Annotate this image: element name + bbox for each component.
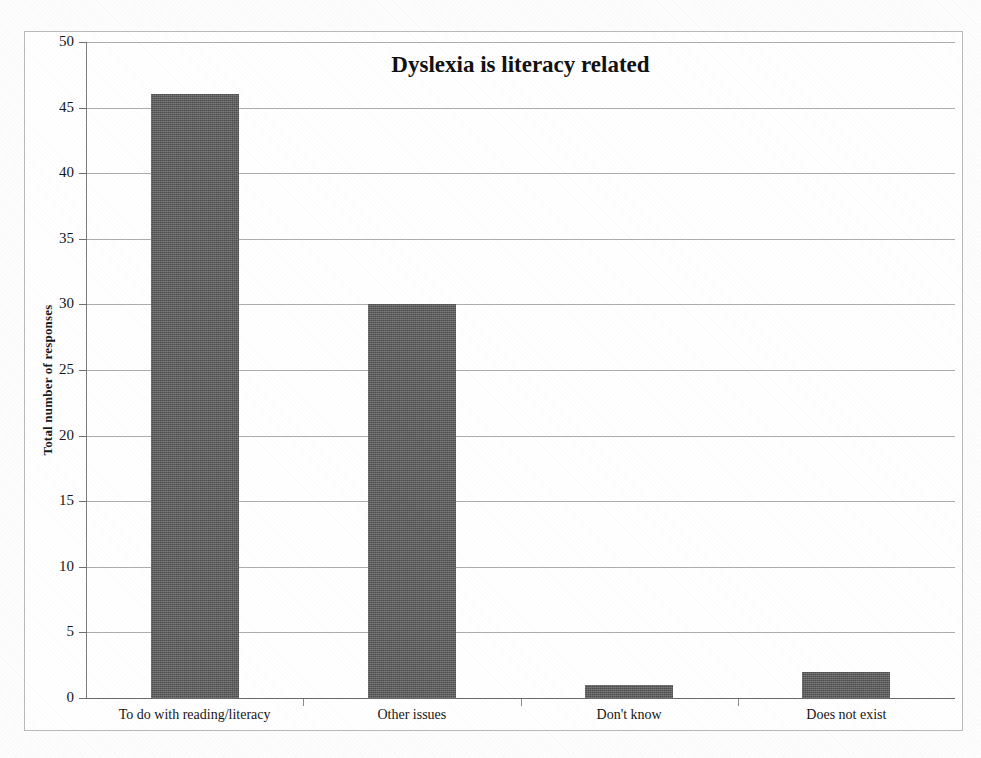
y-tick-label: 0 (34, 690, 74, 705)
y-tick-mark-15 (79, 501, 87, 502)
bar (585, 685, 673, 698)
y-tick-label: 40 (34, 165, 74, 180)
y-tick-mark-0 (79, 698, 87, 699)
y-tick-mark-50 (79, 42, 87, 43)
y-tick-mark-20 (79, 436, 87, 437)
bar (802, 672, 890, 698)
y-tick-label: 30 (34, 296, 74, 311)
y-tick-label: 20 (34, 428, 74, 443)
y-tick-mark-40 (79, 173, 87, 174)
y-tick-mark-25 (79, 370, 87, 371)
x-tick-mark (303, 699, 304, 706)
y-tick-label: 45 (34, 100, 74, 115)
figure-canvas: Dyslexia is literacy related Total numbe… (0, 0, 981, 758)
y-tick-label: 35 (34, 231, 74, 246)
y-axis-tick-labels: 50454035302520151050 (22, 0, 74, 758)
y-tick-mark-35 (79, 239, 87, 240)
x-tick-mark (738, 699, 739, 706)
y-tick-mark-10 (79, 567, 87, 568)
bar (151, 94, 239, 698)
bar (368, 304, 456, 698)
y-tick-mark-30 (79, 304, 87, 305)
y-tick-label: 15 (34, 493, 74, 508)
y-tick-label: 10 (34, 559, 74, 574)
y-tick-label: 50 (34, 34, 74, 49)
y-tick-mark-5 (79, 632, 87, 633)
x-category-label: Other issues (303, 707, 520, 723)
y-tick-label: 25 (34, 362, 74, 377)
x-category-label: Does not exist (738, 707, 955, 723)
x-tick-mark (521, 699, 522, 706)
y-tick-mark-45 (79, 108, 87, 109)
x-category-label: To do with reading/literacy (86, 707, 303, 723)
bars-layer (86, 42, 955, 698)
x-axis-line (86, 698, 953, 699)
y-tick-label: 5 (34, 624, 74, 639)
x-category-label: Don't know (521, 707, 738, 723)
